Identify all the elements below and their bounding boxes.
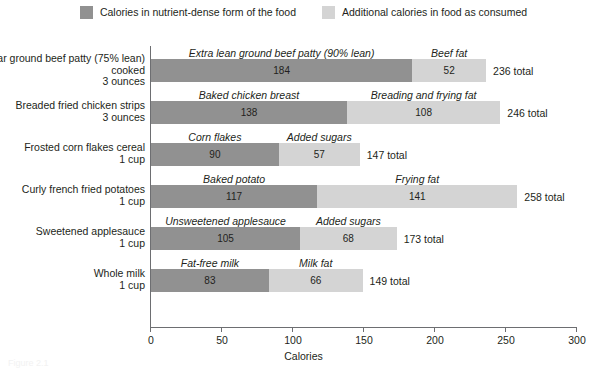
bar-segment-extra: 141 <box>317 185 517 208</box>
bar-row: Frosted corn flakes cereal1 cup90Corn fl… <box>0 130 607 172</box>
x-axis-tick-label: 100 <box>284 334 302 346</box>
row-category-name: Breaded fried chicken strips <box>15 99 145 111</box>
legend-swatch-extra-icon <box>322 6 335 19</box>
stacked-bar: 105Unsweetened applesauce68Added sugars <box>151 227 397 250</box>
bar-segment-base-caption: Fat-free milk <box>151 257 269 269</box>
bar-row: Breaded fried chicken strips3 ounces138B… <box>0 88 607 130</box>
row-category-unit: 1 cup <box>0 196 145 208</box>
row-total-label: 236 total <box>493 59 533 82</box>
x-axis-tick-label: 250 <box>497 334 515 346</box>
bar-segment-extra: 108 <box>347 101 500 124</box>
stacked-bar: 90Corn flakes57Added sugars <box>151 143 360 166</box>
chart-legend: Calories in nutrient-dense form of the f… <box>0 0 607 24</box>
row-category-label: Frosted corn flakes cereal1 cup <box>0 142 145 165</box>
row-category-label: Regular ground beef patty (75% lean) coo… <box>0 53 145 88</box>
x-axis-tick-label: 150 <box>355 334 373 346</box>
row-total-label: 258 total <box>524 185 564 208</box>
x-axis-tick-label: 0 <box>148 334 154 346</box>
figure-caption: Figure 2.1 <box>8 358 49 369</box>
x-axis-title: Calories <box>0 350 607 362</box>
bar-row: Regular ground beef patty (75% lean) coo… <box>0 46 607 88</box>
bar-segment-base-caption: Corn flakes <box>151 131 279 143</box>
row-category-unit: 3 ounces <box>0 112 145 124</box>
bar-segment-extra: 66 <box>269 269 363 292</box>
bar-segment-extra-caption: Added sugars <box>300 215 397 227</box>
stacked-bar: 184Extra lean ground beef patty (90% lea… <box>151 59 486 82</box>
bar-segment-base-caption: Baked chicken breast <box>151 89 347 101</box>
bar-row: Sweetened applesauce1 cup105Unsweetened … <box>0 214 607 256</box>
row-category-name: Whole milk <box>94 267 145 279</box>
x-axis-tick-label: 200 <box>426 334 444 346</box>
row-category-label: Sweetened applesauce1 cup <box>0 226 145 249</box>
row-category-unit: 3 ounces <box>0 76 145 88</box>
bar-segment-extra: 68 <box>300 227 397 250</box>
bar-segment-base: 117 <box>151 185 317 208</box>
row-category-name: Curly french fried potatoes <box>22 183 145 195</box>
bar-segment-extra-caption: Beef fat <box>412 47 486 59</box>
row-total-label: 149 total <box>370 269 410 292</box>
bar-segment-base: 90 <box>151 143 279 166</box>
legend-entry-extra: Additional calories in food as consumed <box>322 6 527 19</box>
bar-segment-base: 138 <box>151 101 347 124</box>
row-total-label: 147 total <box>367 143 407 166</box>
legend-swatch-base-icon <box>80 6 93 19</box>
x-axis-tick <box>363 327 364 332</box>
chart-plot-area: Regular ground beef patty (75% lean) coo… <box>0 24 607 371</box>
bar-segment-base: 184 <box>151 59 412 82</box>
row-total-label: 246 total <box>507 101 547 124</box>
stacked-bar: 138Baked chicken breast108Breading and f… <box>151 101 500 124</box>
bar-segment-extra: 57 <box>279 143 360 166</box>
bar-row: Curly french fried potatoes1 cup117Baked… <box>0 172 607 214</box>
x-axis-tick-label: 50 <box>216 334 228 346</box>
bar-segment-base: 83 <box>151 269 269 292</box>
x-axis-tick <box>292 327 293 332</box>
bar-segment-extra-caption: Breading and frying fat <box>347 89 500 101</box>
legend-label-base: Calories in nutrient-dense form of the f… <box>100 6 296 18</box>
row-total-label: 173 total <box>404 227 444 250</box>
x-axis-tick <box>221 327 222 332</box>
x-axis-tick <box>505 327 506 332</box>
bar-segment-base-caption: Baked potato <box>151 173 317 185</box>
bar-segment-base-caption: Unsweetened applesauce <box>151 215 300 227</box>
row-category-unit: 1 cup <box>0 238 145 250</box>
stacked-bar: 83Fat-free milk66Milk fat <box>151 269 363 292</box>
stacked-bar: 117Baked potato141Frying fat <box>151 185 517 208</box>
row-category-name: Regular ground beef patty (75% lean) coo… <box>0 52 145 76</box>
x-axis-tick <box>576 327 577 332</box>
bar-segment-base: 105 <box>151 227 300 250</box>
row-category-unit: 1 cup <box>0 154 145 166</box>
bar-segment-extra: 52 <box>412 59 486 82</box>
x-axis-tick <box>434 327 435 332</box>
row-category-label: Breaded fried chicken strips3 ounces <box>0 100 145 123</box>
x-axis-tick <box>150 327 151 332</box>
bar-segment-extra-caption: Frying fat <box>317 173 517 185</box>
bar-segment-extra-caption: Milk fat <box>269 257 363 269</box>
legend-entry-base: Calories in nutrient-dense form of the f… <box>80 6 296 19</box>
x-axis-tick-label: 300 <box>568 334 586 346</box>
bar-segment-extra-caption: Added sugars <box>279 131 360 143</box>
row-category-label: Curly french fried potatoes1 cup <box>0 184 145 207</box>
bar-row: Whole milk1 cup83Fat-free milk66Milk fat… <box>0 256 607 298</box>
row-category-name: Sweetened applesauce <box>36 225 145 237</box>
legend-label-extra: Additional calories in food as consumed <box>342 6 527 18</box>
row-category-name: Frosted corn flakes cereal <box>24 141 145 153</box>
row-category-label: Whole milk1 cup <box>0 268 145 291</box>
row-category-unit: 1 cup <box>0 280 145 292</box>
bar-segment-base-caption: Extra lean ground beef patty (90% lean) <box>151 47 412 59</box>
